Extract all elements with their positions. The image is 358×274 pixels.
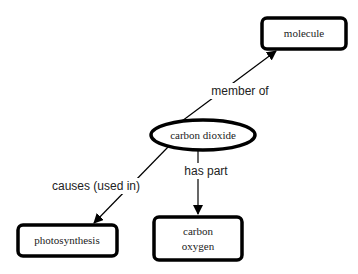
node-label-photosynthesis: photosynthesis (34, 234, 99, 246)
concept-map: member of has part causes (used in) mole… (0, 0, 358, 274)
node-carbon-dioxide[interactable]: carbon dioxide (151, 120, 255, 150)
node-photosynthesis[interactable]: photosynthesis (18, 225, 117, 256)
node-label-oxygen: oxygen (182, 240, 215, 252)
edge-causes: causes (used in) (44, 146, 169, 223)
edge-label-member-of[interactable]: member of (211, 84, 269, 98)
node-carbon-oxygen[interactable]: carbon oxygen (154, 217, 242, 260)
node-label-carbon: carbon (183, 225, 213, 237)
node-label-molecule: molecule (284, 27, 324, 39)
edge-label-causes[interactable]: causes (used in) (52, 179, 140, 193)
edge-member-of: member of (182, 51, 276, 121)
node-label-carbon-dioxide: carbon dioxide (170, 129, 236, 141)
edge-has-part: has part (178, 151, 234, 214)
node-molecule[interactable]: molecule (262, 18, 346, 49)
node-box (154, 217, 242, 260)
edge-label-has-part[interactable]: has part (184, 164, 228, 178)
